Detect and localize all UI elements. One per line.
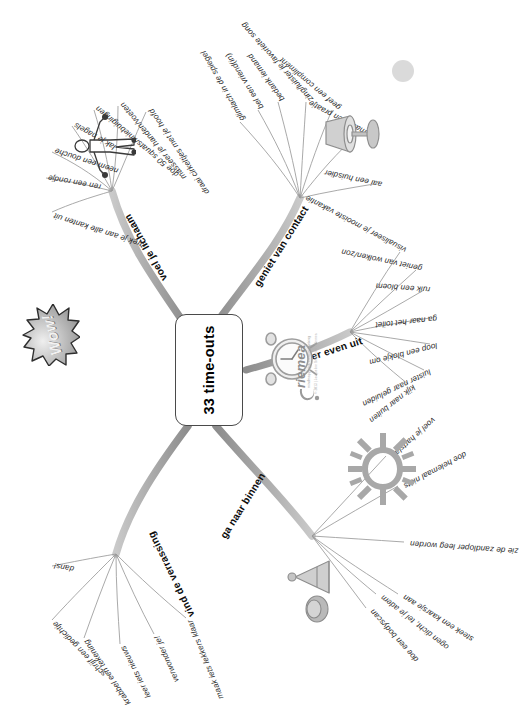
- singing-bowl-icon: [285, 557, 341, 623]
- central-topic-label: 33 time-outs: [201, 326, 217, 415]
- wow-starburst-icon: Wow!: [22, 304, 80, 366]
- copyright-text: © 2013 | Jacqueline Schaeken - Riemea: [314, 333, 318, 394]
- brand-tagline: mindmapping & creative thinking: [307, 336, 311, 388]
- brand-logo[interactable]: riemea mindmapping & creative thinking ©…: [292, 328, 322, 402]
- decorative-dot: [392, 60, 414, 82]
- table-lamp-icon: [320, 106, 382, 166]
- central-topic-node[interactable]: 33 time-outs: [175, 314, 243, 426]
- brand-name: riemea: [293, 345, 308, 388]
- stretching-person-icon: [74, 114, 136, 178]
- sun-icon: [348, 433, 416, 505]
